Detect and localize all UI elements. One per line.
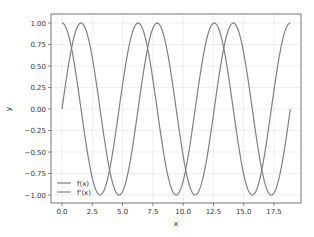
x-tick-label: 0.0 (56, 208, 67, 216)
x-tick-label: 7.5 (147, 208, 158, 216)
x-tick-label: 10.0 (175, 208, 191, 216)
legend-label-fprime: f'(x) (77, 189, 91, 197)
x-tick-label: 2.5 (87, 208, 98, 216)
y-tick-label: −0.50 (25, 149, 46, 157)
x-axis-ticks: 0.02.55.07.510.012.515.017.5 (56, 203, 281, 216)
y-tick-label: 0.25 (30, 84, 46, 92)
x-tick-label: 5.0 (117, 208, 128, 216)
x-tick-label: 12.5 (206, 208, 222, 216)
y-tick-label: 0.00 (30, 106, 46, 114)
y-tick-label: 0.50 (30, 63, 46, 71)
x-tick-label: 15.0 (236, 208, 252, 216)
y-tick-label: −0.75 (25, 170, 46, 178)
y-tick-label: −1.00 (25, 192, 46, 200)
y-tick-label: 0.75 (30, 41, 46, 49)
y-tick-label: 1.00 (30, 20, 46, 28)
y-tick-label: −0.25 (25, 127, 46, 135)
y-axis-label: y (4, 106, 13, 111)
x-tick-label: 17.5 (266, 208, 282, 216)
line-chart: 0.02.55.07.510.012.515.017.5 1.000.750.5… (0, 0, 314, 237)
y-axis-ticks: 1.000.750.500.250.00−0.25−0.50−0.75−1.00 (25, 20, 51, 200)
x-axis-label: x (174, 219, 179, 228)
legend-label-f: f(x) (77, 180, 89, 188)
